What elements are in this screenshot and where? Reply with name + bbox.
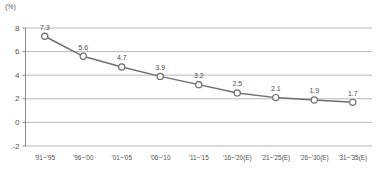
x-axis-tick-label: '31~'35(E) (338, 154, 367, 162)
x-axis-tick-label: '26~'30(E) (300, 154, 329, 162)
y-axis-tick-label: 6 (15, 47, 20, 56)
data-point-marker (42, 33, 48, 39)
x-axis-tick-labels: '91~'95'96~'00'01~'05'06~'10'11~'15'16~'… (35, 154, 368, 162)
x-axis-tick-label: '06~'10 (150, 154, 171, 161)
x-axis-tick-label: '96~'00 (73, 154, 94, 161)
data-point-label: 2.1 (271, 85, 281, 92)
x-axis-tick-label: '21~'25(E) (261, 154, 290, 162)
data-point-label: 5.6 (78, 44, 88, 51)
data-point-label: 3.2 (194, 72, 204, 79)
series-line (45, 36, 353, 102)
x-axis-tick-label: '16~'20(E) (223, 154, 252, 162)
y-axis-tick-label: 8 (15, 24, 20, 33)
y-axis-tick-label: -2 (12, 142, 20, 151)
data-point-label: 7.3 (40, 24, 50, 31)
y-axis-tick-label: 0 (15, 118, 20, 127)
data-point-label: 1.7 (348, 90, 358, 97)
y-axis-tick-label: 2 (15, 94, 20, 103)
x-axis-tick-label: '01~'05 (112, 154, 133, 161)
line-chart: (%) 86420-2 '91~'95'96~'00'01~'05'06~'10… (0, 0, 378, 177)
data-point-label: 2.5 (232, 80, 242, 87)
data-point-label: 4.7 (117, 54, 127, 61)
x-axis-tick-label: '11~'15 (189, 154, 209, 161)
data-point-marker (350, 99, 356, 105)
series-markers (42, 33, 356, 105)
data-point-marker (311, 97, 317, 103)
y-axis-tick-labels: 86420-2 (12, 24, 20, 151)
data-point-label: 1.9 (309, 87, 319, 94)
x-axis-tick-label: '91~'95 (35, 154, 56, 161)
data-point-marker (80, 53, 86, 59)
data-point-label: 3.9 (155, 64, 165, 71)
data-point-marker (196, 82, 202, 88)
data-point-marker (273, 95, 279, 101)
chart-plot-area: 86420-2 '91~'95'96~'00'01~'05'06~'10'11~… (0, 0, 378, 177)
data-point-marker (157, 73, 163, 79)
data-point-marker (234, 90, 240, 96)
data-point-marker (119, 64, 125, 70)
y-axis-tick-label: 4 (15, 71, 20, 80)
